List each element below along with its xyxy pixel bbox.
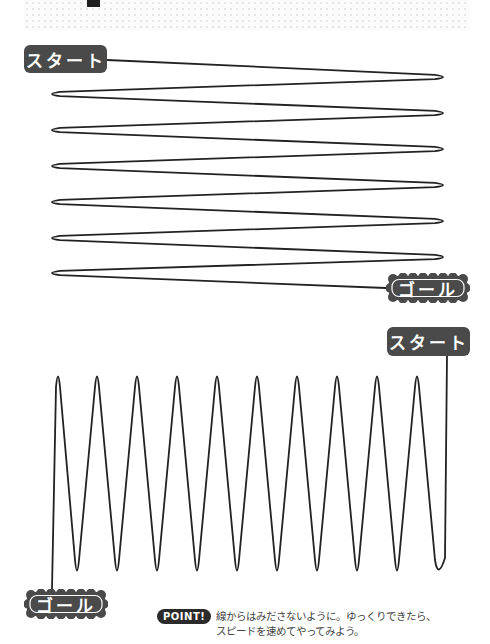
goal-badge-2: ゴール <box>24 589 108 619</box>
horizontal-zigzag-trace-line[interactable] <box>52 60 443 288</box>
goal-label-2: ゴール <box>36 592 96 617</box>
tracing-paths <box>0 0 490 644</box>
goal-badge-1: ゴール <box>386 273 470 303</box>
point-text-line-1: 線からはみださないように。ゆっくりできたら、 <box>216 609 436 624</box>
start-badge-2: スタート <box>387 327 470 356</box>
start-badge-1: スタート <box>24 45 107 73</box>
goal-label-1: ゴール <box>398 276 458 301</box>
vertical-wave-trace-line[interactable] <box>52 356 447 589</box>
point-text-line-2: スピードを速めてやってみよう。 <box>216 624 436 639</box>
start-label-1: スタート <box>26 47 106 72</box>
point-note: POINT! 線からはみださないように。ゆっくりできたら、 スピードを速めてやっ… <box>157 609 436 639</box>
start-label-2: スタート <box>389 329 469 354</box>
point-text: 線からはみださないように。ゆっくりできたら、 スピードを速めてやってみよう。 <box>216 609 436 639</box>
point-badge: POINT! <box>157 609 211 624</box>
